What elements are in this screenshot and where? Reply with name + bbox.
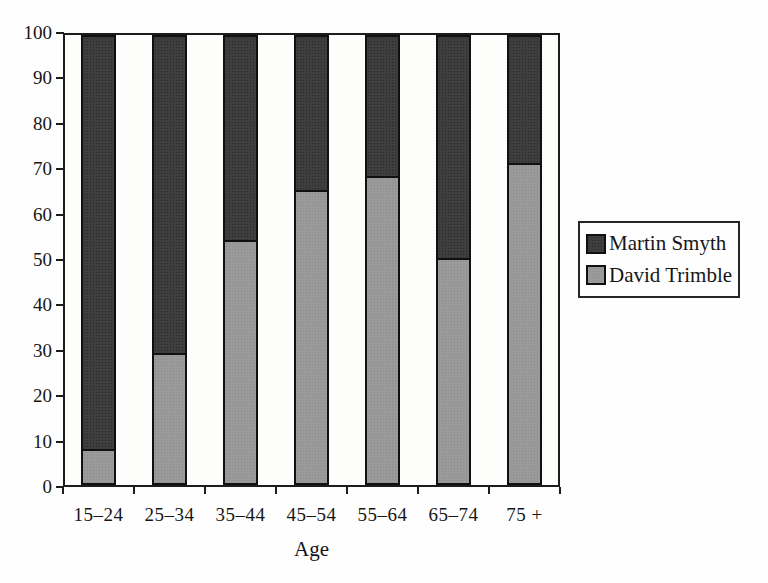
x-tick [275, 487, 277, 494]
y-tick-label: 60 [0, 204, 52, 226]
y-tick [56, 441, 64, 443]
x-tick [204, 487, 206, 494]
y-tick [56, 214, 64, 216]
x-tick-label: 55–64 [343, 503, 423, 527]
segment-martin-smyth [81, 35, 116, 453]
y-tick-label: 50 [0, 249, 52, 271]
x-tick-label: 75 + [485, 503, 565, 527]
x-tick-label: 45–54 [272, 503, 352, 527]
segment-david-trimble [365, 176, 400, 485]
y-tick-label: 20 [0, 385, 52, 407]
legend-item-david-trimble: David Trimble [586, 263, 732, 288]
segment-martin-smyth [436, 35, 471, 262]
y-tick [56, 259, 64, 261]
x-tick [417, 487, 419, 494]
segment-david-trimble [294, 190, 329, 485]
segment-martin-smyth [365, 35, 400, 180]
y-tick [56, 123, 64, 125]
y-tick-label: 80 [0, 113, 52, 135]
segment-david-trimble [507, 163, 542, 485]
y-tick-label: 30 [0, 340, 52, 362]
segment-david-trimble [436, 258, 471, 485]
y-tick [56, 77, 64, 79]
x-tick [62, 487, 64, 494]
y-tick [56, 350, 64, 352]
bar-75 + [507, 35, 542, 485]
y-tick [56, 395, 64, 397]
y-tick [56, 32, 64, 34]
x-tick [488, 487, 490, 494]
legend-swatch-dark-icon [586, 234, 606, 254]
plot-area [63, 33, 560, 487]
segment-david-trimble [223, 240, 258, 485]
x-tick-label: 65–74 [414, 503, 494, 527]
y-tick [56, 168, 64, 170]
segment-martin-smyth [294, 35, 329, 194]
x-tick-label: 25–34 [130, 503, 210, 527]
segment-david-trimble [152, 353, 187, 485]
bar-65–74 [436, 35, 471, 485]
segment-martin-smyth [507, 35, 542, 167]
bar-25–34 [152, 35, 187, 485]
x-tick [133, 487, 135, 494]
x-axis-title: Age [63, 537, 560, 562]
bar-35–44 [223, 35, 258, 485]
legend-label-martin-smyth: Martin Smyth [609, 231, 726, 256]
stacked-bar-chart-figure: 0102030405060708090100 15–2425–3435–4445… [0, 0, 768, 583]
segment-martin-smyth [223, 35, 258, 244]
segment-david-trimble [81, 449, 116, 485]
segment-martin-smyth [152, 35, 187, 357]
x-tick [346, 487, 348, 494]
x-tick-label: 35–44 [201, 503, 281, 527]
y-tick-label: 10 [0, 431, 52, 453]
bar-15–24 [81, 35, 116, 485]
legend-label-david-trimble: David Trimble [609, 263, 732, 288]
bar-55–64 [365, 35, 400, 485]
y-tick-label: 100 [0, 22, 52, 44]
y-tick-label: 40 [0, 294, 52, 316]
y-tick-label: 0 [0, 476, 52, 498]
x-tick-label: 15–24 [59, 503, 139, 527]
legend: Martin Smyth David Trimble [578, 221, 740, 298]
bar-45–54 [294, 35, 329, 485]
x-tick [559, 487, 561, 494]
y-tick-label: 90 [0, 67, 52, 89]
legend-item-martin-smyth: Martin Smyth [586, 231, 732, 256]
y-tick-label: 70 [0, 158, 52, 180]
legend-swatch-gray-icon [586, 265, 606, 285]
y-tick [56, 304, 64, 306]
